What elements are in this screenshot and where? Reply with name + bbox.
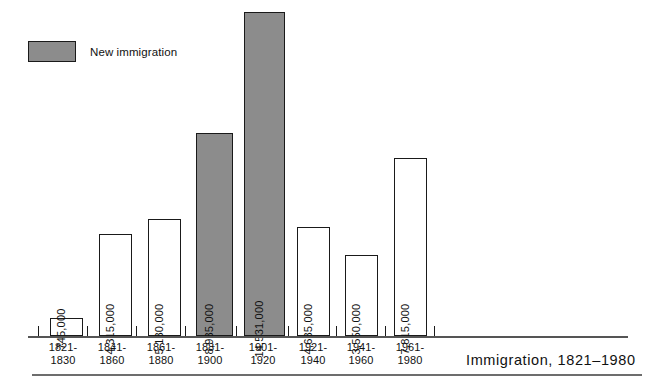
- category-label-line: 1901-: [238, 341, 288, 354]
- bar: 5,130,000: [148, 219, 181, 336]
- category-label-line: 1960: [338, 354, 384, 367]
- category-label-line: 1920: [238, 354, 288, 367]
- x-axis-tick: [434, 326, 435, 336]
- x-axis-tick: [236, 326, 237, 336]
- bar: 745,000: [50, 318, 83, 336]
- category-label-line: 1940: [290, 354, 336, 367]
- x-axis-tick: [336, 326, 337, 336]
- x-axis-tick: [136, 326, 137, 336]
- category-label-line: 1860: [89, 354, 135, 367]
- x-axis-category-label: 1921-1940: [290, 341, 336, 366]
- x-axis-tick: [38, 326, 39, 336]
- category-label-line: 1921-: [290, 341, 336, 354]
- x-axis-category-label: 1961-1980: [387, 341, 433, 366]
- category-label-line: 1861-: [138, 341, 184, 354]
- category-label-line: 1881-: [187, 341, 233, 354]
- x-axis-category-label: 1821-1830: [40, 341, 86, 366]
- bar: 4,635,000: [297, 227, 330, 336]
- x-axis-category-label: 1861-1880: [138, 341, 184, 366]
- category-label-line: 1830: [40, 354, 86, 367]
- x-axis-category-label: 1901-1920: [238, 341, 288, 366]
- category-label-line: 1961-: [387, 341, 433, 354]
- bar: 3,550,000: [345, 255, 378, 336]
- bar: 14,531,000: [244, 12, 285, 336]
- bar: 7,815,000: [394, 158, 427, 336]
- bar: 4,315,000: [99, 234, 132, 336]
- x-axis-category-label: 1841-1860: [89, 341, 135, 366]
- x-axis-category-label: 1881-1900: [187, 341, 233, 366]
- category-label-line: 1980: [387, 354, 433, 367]
- x-axis-tick: [185, 326, 186, 336]
- plot-area: 745,0004,315,0005,130,0008,935,00014,531…: [0, 0, 646, 340]
- bottom-divider: [32, 374, 642, 376]
- bar: 8,935,000: [196, 133, 233, 336]
- x-axis-tick: [87, 326, 88, 336]
- category-label-line: 1821-: [40, 341, 86, 354]
- category-label-line: 1900: [187, 354, 233, 367]
- immigration-bar-chart: New immigration 745,0004,315,0005,130,00…: [0, 0, 646, 388]
- x-axis-tick: [385, 326, 386, 336]
- x-axis-tick: [288, 326, 289, 336]
- category-label-line: 1941-: [338, 341, 384, 354]
- x-axis-category-label: 1941-1960: [338, 341, 384, 366]
- chart-title: Immigration, 1821–1980: [466, 352, 636, 368]
- x-axis-line: [28, 336, 628, 338]
- category-label-line: 1880: [138, 354, 184, 367]
- category-label-line: 1841-: [89, 341, 135, 354]
